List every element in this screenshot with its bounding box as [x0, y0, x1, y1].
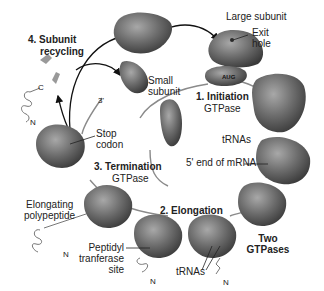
label-stop: Stop [96, 128, 117, 139]
label-n-terminus-2: N [63, 249, 69, 260]
label-five-prime: 5' end of mRNA [186, 157, 256, 168]
label-polypeptide: polypeptide [24, 210, 75, 221]
label-exit: Exit [252, 27, 269, 38]
label-transferase: tranferase [70, 253, 124, 264]
label-small: Small [148, 75, 173, 86]
label-initiation: 1. Initiation [196, 91, 249, 102]
label-c-terminus: C [38, 82, 44, 93]
label-termination: 3. Termination [94, 161, 162, 172]
ribosome-elongation-right [188, 214, 236, 258]
label-termination-gtpase: GTPase [112, 173, 149, 184]
label-n-terminus-1: N [30, 117, 36, 128]
label-n-terminus-4: N [223, 277, 229, 288]
label-peptidyl: Peptidyl [70, 242, 124, 253]
label-trnas-top: tRNAs [222, 134, 251, 145]
ribosome-termination [36, 125, 85, 168]
released-factor-2 [52, 72, 60, 84]
ribosome-elongating-polypeptide [84, 185, 132, 228]
label-initiation-gtpase: GTPase [204, 103, 241, 114]
label-subunit: subunit [148, 86, 180, 97]
small-subunit-binding [160, 99, 182, 146]
ribosome-trna [256, 137, 310, 184]
label-trnas-bottom: tRNAs [176, 266, 205, 277]
label-gtpases: GTPases [243, 244, 293, 255]
small-subunit-free [120, 61, 149, 93]
ribosome-two-gtpases [238, 182, 286, 226]
label-subunit-recycling-2: recycling [40, 46, 84, 57]
label-two: Two [253, 233, 283, 244]
label-aug: AUG [222, 72, 235, 83]
label-elongation: 2. Elongation [160, 205, 223, 216]
label-site: site [70, 264, 124, 275]
label-n-terminus-3: N [150, 276, 156, 287]
label-elongating: Elongating [26, 199, 73, 210]
ribosome-elongation-left [134, 214, 182, 258]
ribosome-cycle-diagram: Large subunit Exit hole Small subunit AU… [0, 0, 324, 291]
label-codon: codon [96, 139, 123, 150]
label-large-subunit: Large subunit [226, 11, 287, 22]
label-hole: hole [252, 38, 271, 49]
ribosome-initiation [252, 74, 306, 133]
label-subunit-recycling-1: 4. Subunit [28, 34, 76, 45]
label-three-prime: 3' [98, 95, 104, 106]
large-subunit-free [114, 13, 172, 54]
